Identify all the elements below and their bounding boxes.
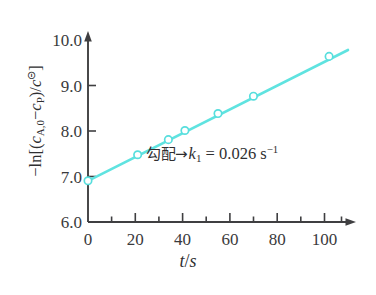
- y-tick-label-7: 7.0: [61, 168, 82, 187]
- x-tick-label-0: 0: [84, 230, 93, 249]
- data-point: [165, 136, 172, 143]
- x-tick-label-100: 100: [312, 230, 338, 249]
- y-tick-label-6: 6.0: [61, 213, 82, 232]
- x-tick-label-20: 20: [127, 230, 144, 249]
- chart-figure: 10.0 9.0 8.0 7.0 6.0 0 20 4: [0, 0, 376, 295]
- plot-canvas: 10.0 9.0 8.0 7.0 6.0 0 20 4: [0, 0, 376, 295]
- data-point: [214, 110, 221, 117]
- y-tick-label-8: 8.0: [61, 122, 82, 141]
- y-tick-label-9: 9.0: [61, 77, 82, 96]
- x-tick-label-40: 40: [174, 230, 191, 249]
- data-point: [325, 53, 332, 60]
- data-point: [134, 151, 141, 158]
- data-point: [250, 92, 257, 99]
- y-tick-label-10: 10.0: [52, 31, 82, 50]
- data-point: [84, 177, 91, 184]
- data-point: [181, 127, 188, 134]
- x-tick-label-60: 60: [221, 230, 238, 249]
- x-tick-label-80: 80: [269, 230, 286, 249]
